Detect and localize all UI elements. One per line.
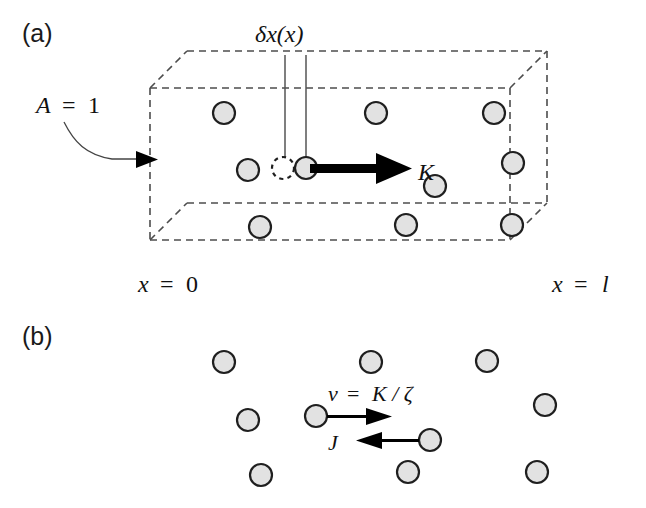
- particle-counterflux: [419, 429, 441, 451]
- x-start-symbol: x: [137, 271, 149, 297]
- particle: [502, 152, 524, 174]
- x-start-value: 0: [186, 271, 198, 297]
- particle: [213, 102, 235, 124]
- figure-root: (a) A = 1: [0, 0, 646, 508]
- velocity-arrow-v: [327, 408, 392, 425]
- flux-label-J: J: [328, 430, 339, 455]
- box-depth-edge-top-left: [150, 51, 187, 88]
- force-arrow-K: [310, 153, 412, 184]
- area-pointer-arrow: [64, 122, 158, 168]
- area-label-value: 1: [88, 92, 100, 118]
- particle: [397, 461, 419, 483]
- flux-arrow-J: [356, 432, 419, 449]
- panel-b: (b) v = K / ζ: [22, 322, 556, 486]
- area-pointer-arrowhead: [136, 151, 158, 168]
- area-label-symbol: A: [34, 92, 51, 118]
- x-end-label-group: x = l: [551, 271, 609, 297]
- velocity-label-v: v: [328, 381, 338, 406]
- particle: [395, 214, 417, 236]
- x-start-equals: =: [160, 271, 174, 297]
- force-arrowhead: [376, 153, 412, 184]
- particle: [250, 464, 272, 486]
- panel-b-label: (b): [22, 322, 53, 350]
- particle-moving: [305, 405, 327, 427]
- particle: [237, 409, 259, 431]
- unit-area-box: [150, 51, 547, 240]
- box-depth-edge-bottom-left: [150, 203, 187, 240]
- velocity-label-equals: =: [347, 381, 359, 406]
- velocity-label-group: v = K / ζ: [328, 381, 415, 406]
- particle-ghost-original-position: [272, 157, 294, 179]
- particle: [483, 102, 505, 124]
- panel-a: (a) A = 1: [22, 19, 609, 297]
- area-label-group: A = 1: [34, 92, 100, 118]
- particle: [360, 351, 382, 373]
- panel-a-label: (a): [22, 19, 53, 47]
- particle: [249, 216, 271, 238]
- velocity-arrowhead: [366, 408, 392, 425]
- displacement-label-group: δx(x): [255, 21, 306, 158]
- particle: [365, 102, 387, 124]
- particle: [476, 350, 498, 372]
- area-pointer-arrow-curve: [64, 122, 138, 159]
- x-end-symbol: x: [551, 271, 563, 297]
- particle: [534, 394, 556, 416]
- velocity-label-rhs: K / ζ: [371, 381, 415, 406]
- x-end-value: l: [602, 271, 609, 297]
- displacement-label: δx(x): [255, 21, 303, 47]
- particle: [213, 351, 235, 373]
- particle: [526, 461, 548, 483]
- box-depth-edge-top-right: [510, 51, 547, 88]
- diagram-canvas: (a) A = 1: [0, 0, 646, 508]
- x-end-equals: =: [574, 271, 588, 297]
- flux-arrowhead: [356, 432, 382, 449]
- x-start-label-group: x = 0: [137, 271, 198, 297]
- particle: [501, 214, 523, 236]
- area-label-equals: =: [62, 92, 76, 118]
- particle: [237, 159, 259, 181]
- force-label-K: K: [417, 159, 436, 185]
